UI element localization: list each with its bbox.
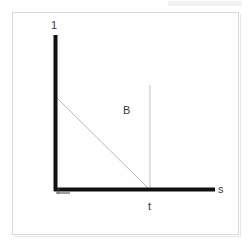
plot-canvas: [0, 0, 251, 248]
x-axis-name-label: s: [218, 184, 224, 195]
budget-line: [57, 98, 150, 190]
x-axis-tick-label-t: t: [148, 201, 151, 212]
region-label-b: B: [123, 105, 130, 116]
y-axis-max-label: 1: [51, 20, 57, 31]
figure-root: 1 s t B: [0, 0, 251, 248]
